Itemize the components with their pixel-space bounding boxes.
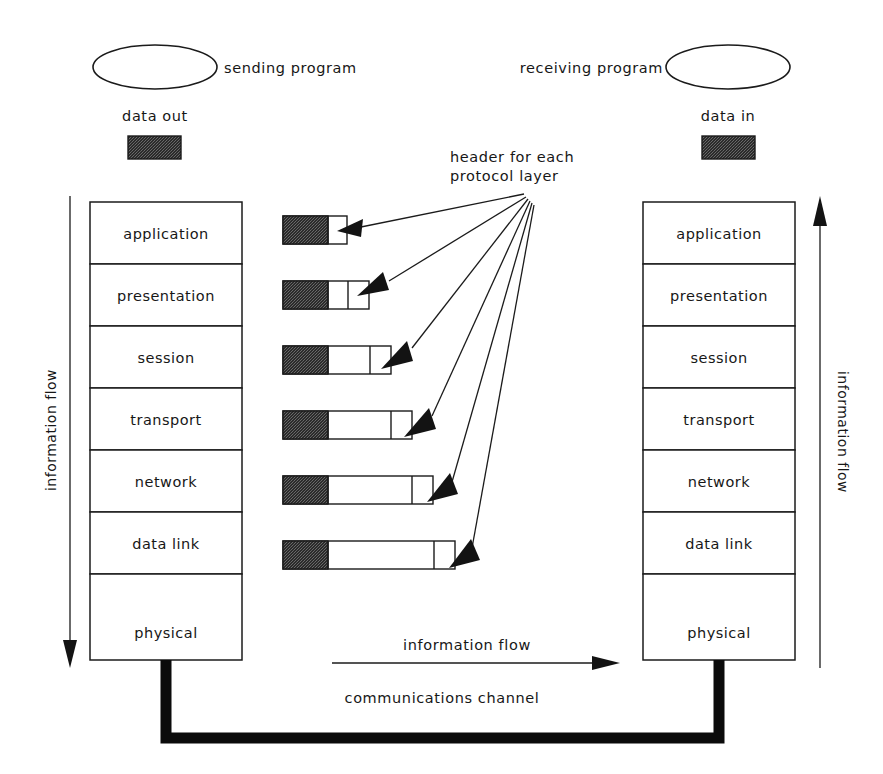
- packet-presentation: [283, 281, 369, 309]
- sending-layer-box-physical[interactable]: [90, 574, 242, 660]
- packet-application-data-block: [283, 216, 328, 244]
- osi-diagram: sending program receiving program data o…: [0, 0, 883, 774]
- header-note-line1: header for each: [450, 149, 574, 165]
- sending-layer-label-physical: physical: [134, 625, 197, 641]
- sending-layer-label-application: application: [123, 226, 208, 242]
- sending-layer-label-transport: transport: [130, 412, 202, 428]
- sending-program-label: sending program: [224, 60, 357, 76]
- packet-transport-data-block: [283, 411, 328, 439]
- packet-datalink: [283, 541, 455, 569]
- right-information-flow-label: information flow: [835, 371, 851, 493]
- data-out-block: [128, 136, 181, 159]
- sending-program-ellipse: [93, 45, 217, 89]
- packet-transport: [283, 411, 412, 439]
- sending-layer-label-session: session: [137, 350, 194, 366]
- receiving-layer-label-session: session: [690, 350, 747, 366]
- sending-layer-label-datalink: data link: [132, 536, 200, 552]
- data-in-label: data in: [701, 108, 756, 124]
- sending-layer-label-presentation: presentation: [117, 288, 215, 304]
- packet-session-data-block: [283, 346, 328, 374]
- packet-network: [283, 476, 433, 504]
- bottom-information-flow-label: information flow: [403, 637, 531, 653]
- receiving-program-label: receiving program: [520, 60, 663, 76]
- left-information-flow-label: information flow: [43, 369, 59, 491]
- packet-session: [283, 346, 391, 374]
- data-out-label: data out: [122, 108, 188, 124]
- data-in-block: [702, 136, 755, 159]
- receiving-stack: application presentation session transpo…: [643, 202, 795, 660]
- receiving-layer-label-presentation: presentation: [670, 288, 768, 304]
- receiving-layer-label-transport: transport: [683, 412, 755, 428]
- receiving-layer-label-application: application: [676, 226, 761, 242]
- osi-diagram-canvas: sending program receiving program data o…: [0, 0, 883, 774]
- receiving-layer-label-datalink: data link: [685, 536, 753, 552]
- sending-stack: application presentation session transpo…: [90, 202, 242, 660]
- receiving-layer-label-network: network: [688, 474, 750, 490]
- packet-network-data-block: [283, 476, 328, 504]
- receiving-layer-label-physical: physical: [687, 625, 750, 641]
- packet-datalink-data-block: [283, 541, 328, 569]
- packet-presentation-data-block: [283, 281, 328, 309]
- receiving-layer-box-physical[interactable]: [643, 574, 795, 660]
- receiving-program-ellipse: [666, 45, 790, 89]
- header-note-line2: protocol layer: [450, 168, 559, 184]
- communications-channel-label: communications channel: [345, 690, 540, 706]
- packet-application: [283, 216, 347, 244]
- sending-layer-label-network: network: [135, 474, 197, 490]
